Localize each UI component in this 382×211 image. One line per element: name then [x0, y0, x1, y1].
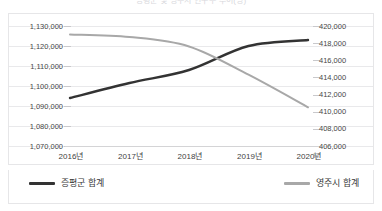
corner-glyph-icon: ⊞ [313, 152, 319, 160]
legend: 증평군 합계 영주시 합계 [8, 170, 374, 204]
legend-swatch-yeongju [284, 182, 310, 185]
legend-label-yeongju: 영주시 합계 [316, 178, 359, 189]
series-line-jeungpyeong [70, 40, 308, 98]
legend-label-jeungpyeong: 증평군 합계 [61, 178, 104, 189]
chart-container: 증평군 및 영주시 인구수 추이(명) 1,130,0001,120,0001,… [0, 0, 382, 211]
legend-item-jeungpyeong[interactable]: 증평군 합계 [29, 178, 104, 189]
legend-swatch-jeungpyeong [29, 182, 55, 185]
legend-item-yeongju[interactable]: 영주시 합계 [284, 178, 359, 189]
